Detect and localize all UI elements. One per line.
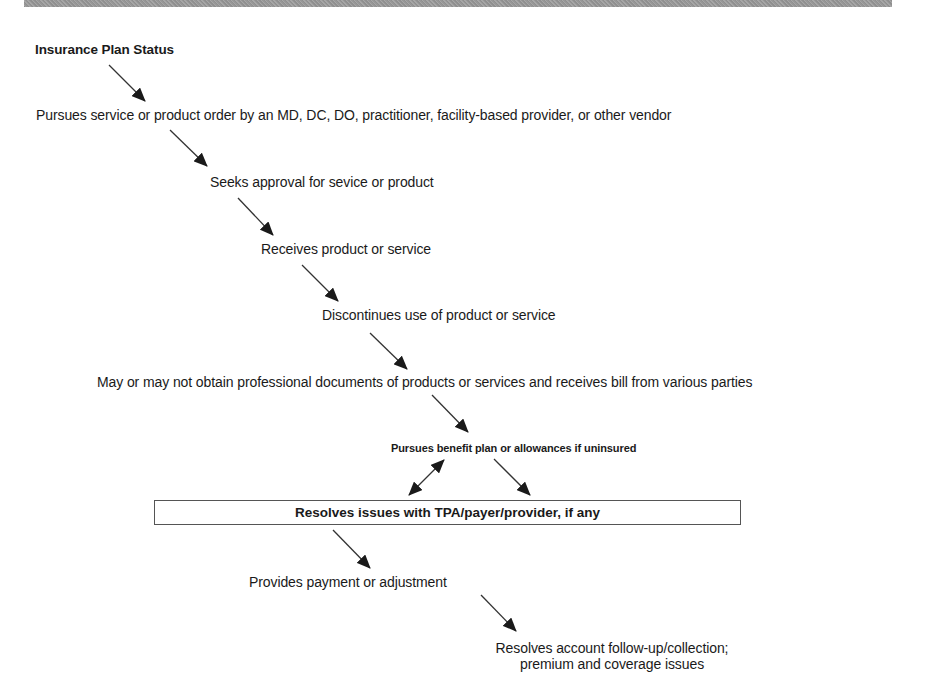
arrow-documents-to-benefit: [432, 395, 468, 432]
arrow-discontinues-to-documents: [370, 333, 407, 369]
arrow-receives-to-discontinues: [302, 265, 338, 301]
arrow-order-to-approval: [170, 130, 207, 166]
arrow-benefit-to-resolves: [494, 459, 530, 495]
connector-arrows: [0, 0, 932, 696]
arrow-approval-to-receives: [238, 198, 273, 235]
double-arrow-benefit-resolves: [409, 460, 444, 495]
arrow-resolves-to-payment: [333, 530, 370, 568]
arrow-payment-to-followup: [481, 595, 516, 631]
arrow-title-to-order: [109, 65, 145, 101]
